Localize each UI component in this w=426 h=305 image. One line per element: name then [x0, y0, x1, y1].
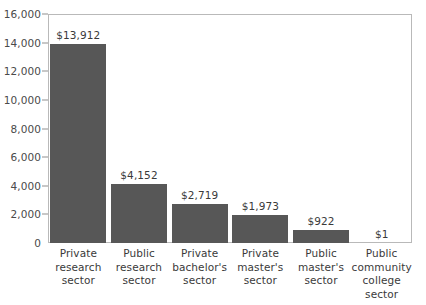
x-axis-category-line: Public: [109, 247, 170, 261]
x-axis-category-line: research: [109, 261, 170, 275]
x-axis-category-line: research: [48, 261, 109, 275]
bar-group: $4,152: [111, 14, 167, 243]
x-axis-category-label: Privatemaster'ssector: [230, 247, 291, 288]
bar-group: $13,912: [50, 14, 106, 243]
x-axis-category-line: sector: [169, 274, 230, 288]
y-axis-tick-label: 8,000: [10, 123, 41, 135]
x-axis-category-labels: PrivateresearchsectorPublicresearchsecto…: [48, 247, 412, 305]
x-axis-category-line: master's: [291, 261, 352, 275]
bar-value-label: $4,152: [120, 169, 157, 181]
x-axis-category-label: Privateresearchsector: [48, 247, 109, 288]
bars-layer: $13,912$4,152$2,719$1,973$922$1: [48, 14, 412, 243]
x-axis-category-line: college: [351, 274, 412, 288]
bar-group: $922: [293, 14, 349, 243]
y-axis-tick-label: 4,000: [10, 180, 41, 192]
bar-value-label: $1: [375, 228, 389, 240]
x-axis-category-label: Publicmaster'ssector: [291, 247, 352, 288]
x-axis-category-line: community: [351, 261, 412, 275]
bar: [232, 215, 288, 243]
x-axis-category-line: Private: [169, 247, 230, 261]
bar-group: $1: [354, 14, 410, 243]
x-axis-category-label: Publiccommunitycollegesector: [351, 247, 412, 301]
bar-group: $2,719: [172, 14, 228, 243]
x-axis-category-label: Publicresearchsector: [109, 247, 170, 288]
x-axis-category-line: sector: [230, 274, 291, 288]
bar: [172, 204, 228, 243]
x-axis-category-line: sector: [291, 274, 352, 288]
x-axis-category-line: sector: [109, 274, 170, 288]
x-axis-category-line: sector: [351, 288, 412, 302]
x-axis-category-line: Public: [291, 247, 352, 261]
bar: [111, 184, 167, 243]
x-axis-category-label: Privatebachelor'ssector: [169, 247, 230, 288]
bar-value-label: $13,912: [56, 29, 100, 41]
x-axis-category-line: bachelor's: [169, 261, 230, 275]
x-axis-category-line: sector: [48, 274, 109, 288]
bar-value-label: $2,719: [181, 189, 218, 201]
y-axis-tick-label: 16,000: [4, 8, 41, 20]
bar: [50, 44, 106, 243]
y-axis-tick-label: 10,000: [4, 94, 41, 106]
y-axis-tick-labels: 02,0004,0006,0008,00010,00012,00014,0001…: [0, 14, 41, 243]
bar-chart-figure: 02,0004,0006,0008,00010,00012,00014,0001…: [0, 0, 426, 305]
y-axis-tick-label: 12,000: [4, 65, 41, 77]
bar-group: $1,973: [232, 14, 288, 243]
y-axis-tick-label: 2,000: [10, 208, 41, 220]
y-axis-tick-label: 0: [34, 237, 41, 249]
y-axis-tick-label: 14,000: [4, 37, 41, 49]
x-axis-category-line: master's: [230, 261, 291, 275]
x-axis-category-line: Public: [351, 247, 412, 261]
bar-value-label: $922: [307, 215, 334, 227]
x-axis-category-line: Private: [230, 247, 291, 261]
bar: [293, 230, 349, 243]
x-axis-category-line: Private: [48, 247, 109, 261]
bar-value-label: $1,973: [242, 200, 279, 212]
y-axis-tick-label: 6,000: [10, 151, 41, 163]
